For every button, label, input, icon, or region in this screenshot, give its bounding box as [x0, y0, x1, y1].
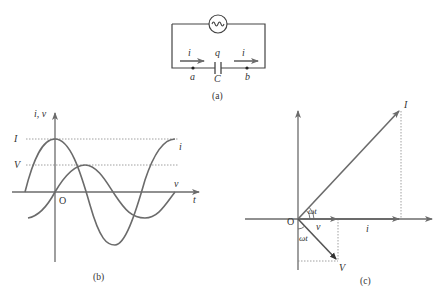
capacitor-label: C [214, 73, 221, 84]
origin-label-c: O [287, 216, 294, 227]
projection-i-label: i [366, 223, 369, 234]
t-axis-label: t [193, 194, 196, 205]
node-b-label: b [245, 71, 250, 82]
node-a-label: a [190, 71, 195, 82]
node-b-dot [245, 66, 248, 69]
phasor-diagram: I V i v ωt ωt O (c) [245, 99, 432, 287]
projection-v-label: v [316, 221, 321, 232]
phasor-I-label: I [403, 99, 408, 110]
charge-label: q [215, 47, 220, 58]
amplitude-V-label: V [14, 159, 22, 170]
curve-v-label: v [174, 178, 179, 189]
origin-label-b: O [59, 195, 66, 206]
angle-upper-label: ωt [308, 206, 317, 216]
angle-lower-label: ωt [299, 233, 308, 243]
phasor-I-arrow [298, 111, 399, 219]
angle-arc-lower-icon [298, 226, 305, 229]
time-graph: i, v I V i v t O (b) [12, 108, 199, 283]
caption-c: (c) [360, 276, 371, 287]
curve-i-label: i [179, 141, 182, 152]
caption-b: (b) [93, 272, 104, 283]
amplitude-I-label: I [13, 133, 18, 144]
phasor-V-label: V [339, 262, 347, 273]
circuit-diagram: i i q a C b (a) [172, 15, 265, 102]
caption-a: (a) [212, 91, 223, 102]
current-label-left: i [188, 47, 191, 58]
node-a-dot [191, 66, 194, 69]
current-label-right: i [242, 47, 245, 58]
y-axis-label: i, v [34, 108, 47, 119]
